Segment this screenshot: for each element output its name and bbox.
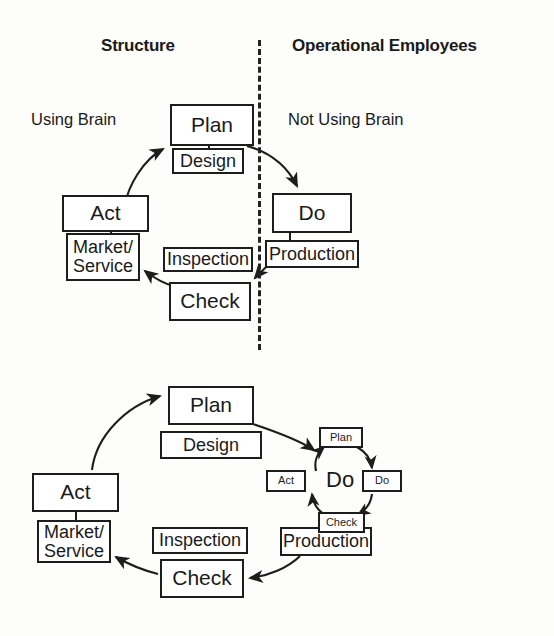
inner-box-do[interactable]: Do [362,470,402,492]
top-box-plan[interactable]: Plan [170,104,254,146]
diagram-canvas: Structure Operational Employees Using Br… [0,0,554,636]
arrow-top-plan-to-do [247,146,297,186]
arrow-bottom-check-to-act [116,557,158,574]
top-box-inspection[interactable]: Inspection [163,247,253,272]
top-box-check[interactable]: Check [169,282,251,321]
bottom-box-design[interactable]: Design [160,431,262,459]
vertical-dashed-divider [258,40,261,350]
top-box-production[interactable]: Production [265,240,359,268]
arrow-mini-plan-to-do [357,447,372,468]
arrow-bottom-act-to-plan [92,396,160,470]
arrow-bottom-production-to-check [250,556,300,578]
top-box-do[interactable]: Do [272,193,352,233]
bottom-box-market-service[interactable]: Market/ Service [37,520,111,563]
arrow-mini-act-to-plan [315,447,324,471]
annotation-using-brain: Using Brain [31,110,116,129]
inner-cycle-center-label: Do [326,467,354,493]
header-operational-employees: Operational Employees [292,36,477,56]
top-box-act[interactable]: Act [62,195,149,232]
bottom-box-act[interactable]: Act [32,473,119,512]
inner-box-act[interactable]: Act [266,470,306,492]
top-box-design[interactable]: Design [172,148,244,174]
bottom-box-inspection[interactable]: Inspection [152,527,248,554]
annotation-not-using-brain: Not Using Brain [288,110,404,129]
inner-box-check[interactable]: Check [318,512,365,533]
bottom-box-plan[interactable]: Plan [168,386,254,425]
arrow-bottom-plan-to-inner [253,424,314,450]
inner-box-plan[interactable]: Plan [319,427,363,448]
header-structure: Structure [101,36,175,56]
bottom-box-check[interactable]: Check [160,559,244,598]
top-box-market-service[interactable]: Market/ Service [66,233,140,281]
